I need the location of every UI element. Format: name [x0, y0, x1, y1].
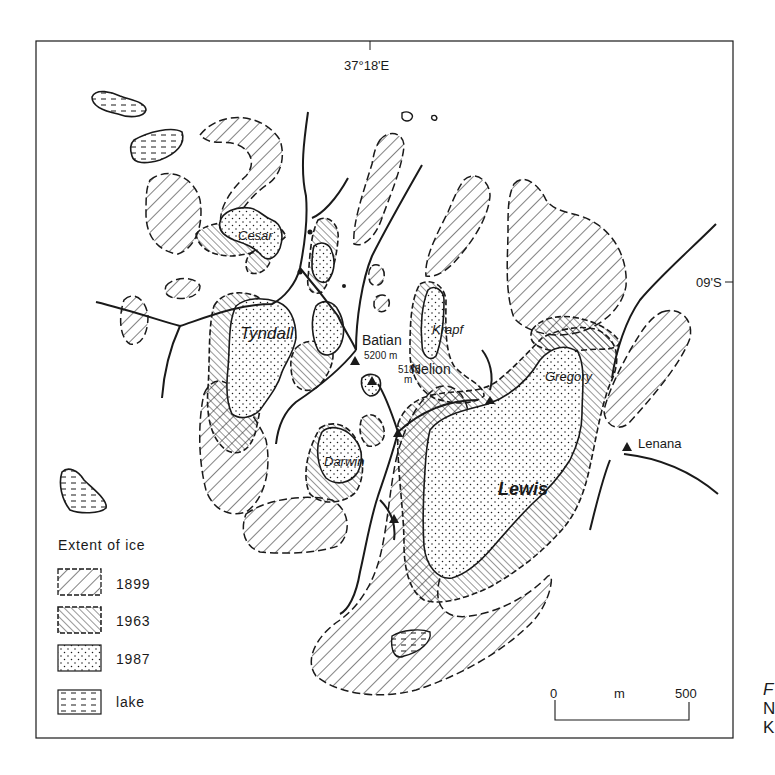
- tarn-top-1: [402, 112, 412, 121]
- legend-label-1987: 1987: [116, 651, 150, 667]
- ice-1899-northridge: [354, 133, 404, 244]
- ridge-krapf-east: [482, 350, 492, 390]
- label-lewis: Lewis: [498, 479, 548, 499]
- junction-north-icon: [308, 230, 313, 235]
- legend-label-lake: lake: [116, 694, 145, 710]
- legend-label-1899: 1899: [116, 576, 150, 592]
- legend-swatch-lake: [58, 690, 101, 714]
- ice-1963-gregory-rim: [531, 317, 620, 352]
- legend-label-1963: 1963: [116, 613, 150, 629]
- scale-start: 0: [550, 686, 557, 701]
- ice-1987-tyndall: [227, 299, 296, 418]
- lake-nw-2: [131, 130, 183, 163]
- latitude-label: 09'S: [696, 275, 722, 290]
- ice-1987-north: [312, 243, 334, 282]
- label-lenana: Lenana: [638, 436, 682, 451]
- ice-1899-small-1: [165, 279, 200, 299]
- ice-1899-lenana: [604, 310, 691, 427]
- label-darwin: Darwin: [324, 454, 364, 469]
- legend-title: Extent of ice: [58, 537, 145, 553]
- junction-col-icon: [342, 284, 346, 288]
- label-krapf: Krapf: [432, 322, 464, 337]
- label-batian-elevation: 5200 m: [364, 350, 397, 361]
- legend-swatch-1963: [58, 607, 101, 633]
- lake-sw: [60, 469, 106, 513]
- tarn-top-2: [432, 115, 437, 120]
- ridge-north-2: [312, 178, 348, 218]
- lake-nw-1: [92, 92, 146, 117]
- ice-1899-west-blob: [146, 174, 201, 254]
- cropped-caption: F N K: [763, 680, 775, 737]
- peak-lenana-icon: [622, 442, 632, 451]
- legend: Extent of ice 1899 1963 1987 lake: [58, 537, 150, 714]
- ice-1899-small-col: [369, 265, 385, 286]
- scale-unit: m: [614, 686, 625, 701]
- ice-1899-small-col-2: [374, 295, 389, 312]
- ice-1963-col-2: [360, 415, 384, 447]
- legend-swatch-1987: [58, 645, 101, 671]
- caption-letter-2: N: [763, 699, 775, 718]
- label-nelion-unit: m: [404, 374, 412, 385]
- ridge-north-1: [300, 112, 308, 268]
- label-batian: Batian: [362, 332, 402, 348]
- ridge-lenana-s: [590, 460, 610, 530]
- junction-west-icon: [298, 270, 303, 275]
- scale-bar: 0 m 500: [550, 686, 697, 720]
- ice-1899-darwin-south: [243, 497, 347, 553]
- ice-1899-gregory-big: [507, 179, 626, 335]
- longitude-label: 37°18'E: [344, 58, 390, 73]
- ridge-lenana-e: [624, 454, 718, 494]
- ice-1987-tyndall-east: [312, 302, 343, 355]
- peak-batian-icon: [350, 356, 360, 365]
- caption-letter-1: F: [763, 680, 775, 699]
- scale-end: 500: [675, 686, 697, 701]
- label-gregory: Gregory: [545, 369, 593, 384]
- legend-swatch-1899: [58, 569, 101, 595]
- label-cesar: Cesar: [238, 228, 273, 243]
- ridge-west-branch: [162, 326, 180, 398]
- scale-bar-line: [555, 700, 689, 720]
- ice-1899-far-west: [121, 296, 148, 344]
- label-tyndall: Tyndall: [240, 324, 295, 343]
- ice-1899: [121, 118, 691, 695]
- ice-1899-krapf: [426, 176, 490, 276]
- caption-letter-3: K: [763, 718, 775, 737]
